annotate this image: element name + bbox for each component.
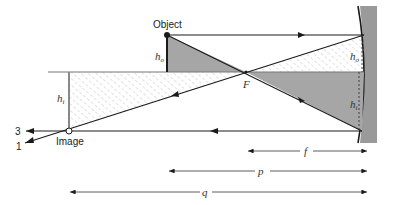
dimension-f-label: f [304,145,309,157]
ray-3-label: 3 [15,126,21,137]
mirror-ray-diagram: Object Image F ho hi ho hi 3 1 f p q [0,0,395,205]
shaded-mirror-lower-triangle [246,72,364,131]
image-point [66,128,72,134]
arrow-head-icon [25,137,34,143]
dimension-q-label: q [202,186,208,198]
dimension-p-label: p [257,165,264,177]
h-i-left-label: hi [57,92,65,106]
arrow-head-icon [298,32,305,38]
arrow-head-icon [26,128,34,134]
focal-label: F [242,78,250,90]
image-label: Image [56,136,84,147]
focal-point [245,71,248,74]
h-o-left-label: ho [155,50,165,64]
object-label: Object [153,19,182,30]
arrow-head-icon [210,128,218,134]
ray-1-label: 1 [16,141,22,152]
